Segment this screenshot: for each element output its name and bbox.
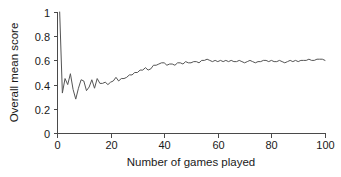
y-tick-label: 1 xyxy=(44,7,50,19)
x-tick-label: 100 xyxy=(316,139,334,151)
y-axis-tick-labels: 00.20.40.60.81 xyxy=(35,7,50,140)
y-tick-label: 0.8 xyxy=(35,31,50,43)
y-axis-tick-marks xyxy=(54,13,58,134)
x-axis-title: Number of games played xyxy=(127,156,255,168)
y-tick-label: 0.4 xyxy=(35,80,50,92)
x-tick-label: 0 xyxy=(54,139,60,151)
x-tick-label: 80 xyxy=(265,139,277,151)
y-tick-label: 0 xyxy=(44,128,50,140)
chart-figure: 00.20.40.60.81 020406080100 Overall mean… xyxy=(0,0,341,177)
chart-series-group xyxy=(60,12,325,99)
x-axis-tick-labels: 020406080100 xyxy=(54,139,334,151)
x-tick-label: 20 xyxy=(105,139,117,151)
x-axis-tick-marks xyxy=(58,134,326,138)
y-tick-label: 0.6 xyxy=(35,55,50,67)
series-line-overall-mean-score xyxy=(60,12,325,99)
y-tick-label: 0.2 xyxy=(35,104,50,116)
line-chart: 00.20.40.60.81 020406080100 Overall mean… xyxy=(0,0,341,177)
chart-axes xyxy=(54,12,326,138)
y-axis-title: Overall mean score xyxy=(8,23,20,123)
x-tick-label: 40 xyxy=(158,139,170,151)
x-tick-label: 60 xyxy=(212,139,224,151)
